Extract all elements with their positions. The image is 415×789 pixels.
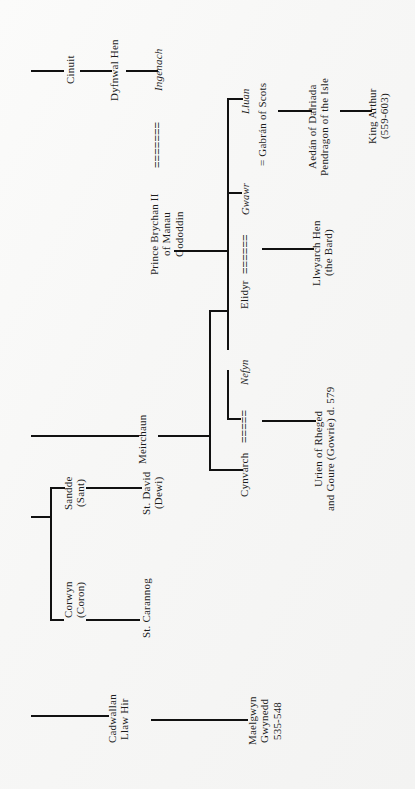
sibling-spine-corwyn-sandde [50, 487, 52, 621]
sibling-spine-brychan-children [227, 98, 229, 350]
person-cinuit: Cinuit [64, 40, 76, 100]
person-gabran-of-scots: = Gabrán of Scots [256, 72, 268, 176]
person-st-carannog: St. Carannog [140, 566, 152, 650]
person-cadwallan-llaw-hir: Cadwallan Llaw Hir [106, 686, 131, 752]
connector-corwyn-to-st-carannog [86, 619, 140, 621]
connector-into-cadwallan [31, 715, 109, 717]
person-king-arthur: King Arthur (559-603) [366, 68, 391, 164]
marriage-bar-cynvarch-nefyn: ===== [239, 393, 251, 443]
person-gwawr: Gwawr [240, 176, 252, 222]
person-cynvarch: Cynvarch [238, 440, 250, 510]
person-elidyr: Elidyr [238, 270, 250, 320]
connector-meirchaun-to-children [158, 435, 210, 437]
connector-meirchaun-to-elidyr [209, 310, 228, 312]
connector-elidyr-to-llwyarch [262, 248, 314, 250]
connector-cynvarch-to-urien [262, 420, 316, 422]
connector-brychan-to-children [174, 250, 228, 252]
person-dyfnwal-hen: Dyfnwal Hen [108, 22, 120, 118]
person-lluan: Lluan [240, 78, 252, 124]
person-aedan-of-dalriada: Aedán of Dalriada Pendragon of the Isle [306, 60, 331, 194]
sibling-spine-meirchaun-children [209, 310, 211, 470]
genealogy-chart: Cinuit Dyfnwal Hen Ingenach ======= Prin… [0, 0, 415, 789]
person-corwyn: Corwyn (Coron) [62, 566, 87, 634]
connector-into-meirchaun [31, 435, 139, 437]
connector-into-corwyn-sandde [31, 516, 51, 518]
person-nefyn: Nefyn [239, 348, 251, 396]
connector-sandde-to-st-david [86, 487, 142, 489]
marriage-bar-ingenach-brychan: ======= [152, 104, 164, 168]
spine-stub-nefyn [227, 370, 229, 420]
person-ingenach: Ingenach [152, 38, 164, 102]
marriage-bar-elidyr-gwawr: ====== [240, 218, 252, 274]
person-llwyarch-hen: Llwyarch Hen (the Bard) [310, 198, 335, 308]
person-sandde: Sandde (Sant) [62, 462, 87, 524]
connector-into-cinuit [31, 70, 64, 72]
person-prince-brychan-ii: Prince Brychan II of Manau Gododdin [148, 170, 185, 298]
connector-cadwallan-to-maelgwyn [151, 719, 248, 721]
person-maelgwyn-gwynedd: Maelgwyn Gwynedd 535-548 [246, 684, 283, 758]
person-st-david: St. David (Dewi) [140, 462, 165, 524]
person-urien-of-rheged: Urien of Rheged and Goure (Gowrie) d. 57… [312, 374, 337, 524]
